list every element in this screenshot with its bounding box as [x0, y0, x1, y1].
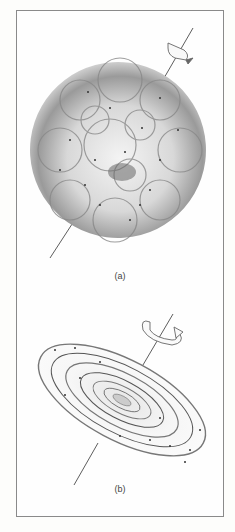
rotation-arrow-b-icon: [142, 321, 183, 345]
rotation-axis-lower-b: [74, 443, 98, 485]
panel-a-cloud: [10, 28, 226, 258]
panel-b-label: (b): [100, 484, 140, 494]
panel-b-disk: [22, 314, 222, 485]
rotation-arrow-a-icon: [168, 43, 193, 64]
panel-a-label: (a): [100, 271, 140, 281]
figure-artwork: [0, 0, 235, 532]
